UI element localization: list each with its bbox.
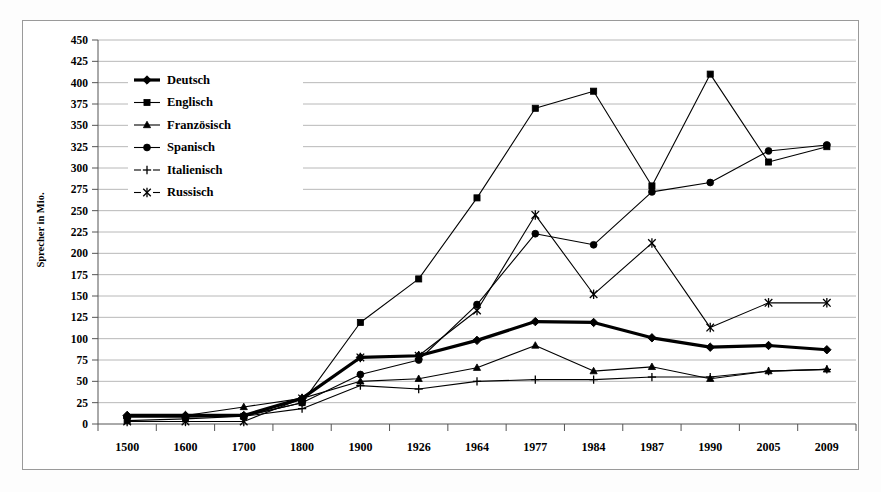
legend-label: Deutsch bbox=[167, 73, 210, 87]
x-tick-label: 2009 bbox=[815, 440, 839, 454]
x-tick-label: 1990 bbox=[698, 440, 722, 454]
y-tick-label: 150 bbox=[71, 290, 89, 302]
x-tick-label: 2005 bbox=[757, 440, 781, 454]
y-tick-label: 325 bbox=[71, 141, 89, 153]
x-tick-label: 1500 bbox=[115, 440, 139, 454]
chart-legend: DeutschEnglischFranzösischSpanischItalie… bbox=[128, 64, 303, 207]
x-tick-label: 1900 bbox=[348, 440, 372, 454]
x-tick-label: 1600 bbox=[173, 440, 197, 454]
x-tick-label: 1977 bbox=[523, 440, 547, 454]
x-axis-tick-labels: 1500160017001800190019261964197719841987… bbox=[115, 440, 839, 454]
y-tick-label: 25 bbox=[77, 397, 89, 409]
y-tick-label: 275 bbox=[71, 183, 89, 195]
y-axis-title: Sprecher in Mio. bbox=[35, 192, 46, 268]
x-tick-label: 1987 bbox=[640, 440, 664, 454]
legend-label: Spanisch bbox=[167, 140, 215, 154]
legend-label: Italienisch bbox=[167, 163, 223, 177]
x-tick-label: 1926 bbox=[407, 440, 431, 454]
y-tick-label: 0 bbox=[82, 418, 88, 430]
legend-label: Russisch bbox=[167, 185, 214, 199]
legend-label: Französisch bbox=[167, 118, 231, 132]
x-tick-label: 1700 bbox=[232, 440, 256, 454]
line-chart: 0255075100125150175200225250275300325350… bbox=[0, 0, 881, 492]
y-tick-label: 225 bbox=[71, 226, 89, 238]
y-axis-tick-labels: 0255075100125150175200225250275300325350… bbox=[71, 34, 89, 430]
y-tick-label: 75 bbox=[77, 354, 89, 366]
y-tick-label: 125 bbox=[71, 311, 89, 323]
y-tick-label: 375 bbox=[71, 98, 89, 110]
series-italienisch bbox=[123, 365, 831, 420]
x-tick-label: 1984 bbox=[582, 440, 606, 454]
figure-root: 0255075100125150175200225250275300325350… bbox=[0, 0, 881, 492]
y-tick-label: 425 bbox=[71, 55, 89, 67]
series-russisch bbox=[123, 210, 830, 426]
y-tick-label: 50 bbox=[77, 375, 89, 387]
y-tick-label: 350 bbox=[71, 119, 89, 131]
y-tick-label: 175 bbox=[71, 269, 89, 281]
y-tick-label: 400 bbox=[71, 77, 89, 89]
y-tick-label: 200 bbox=[71, 247, 89, 259]
x-tick-label: 1964 bbox=[465, 440, 489, 454]
y-tick-label: 250 bbox=[71, 205, 89, 217]
y-tick-label: 100 bbox=[71, 333, 89, 345]
legend-label: Englisch bbox=[167, 95, 213, 109]
x-tick-label: 1800 bbox=[290, 440, 314, 454]
y-tick-label: 300 bbox=[71, 162, 89, 174]
y-tick-label: 450 bbox=[71, 34, 89, 46]
